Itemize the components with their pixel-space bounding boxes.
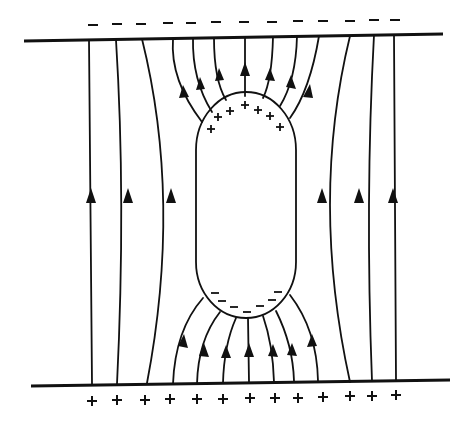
top-plate (24, 34, 443, 41)
conductor-bottom-charges (211, 292, 282, 312)
bottom-plate-charges (87, 390, 401, 406)
conductor-top-charges (207, 101, 284, 133)
top-plate-charges (88, 20, 400, 25)
field-lines (89, 35, 396, 384)
field-diagram (0, 0, 475, 430)
field-arrows (86, 62, 398, 358)
bottom-plate (31, 380, 450, 386)
